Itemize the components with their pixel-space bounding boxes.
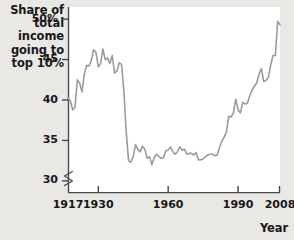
x-tick-label-1960: 1960: [145, 198, 191, 211]
y-tick-label-30: 30: [18, 173, 58, 186]
chart-container: Share oftotal incomegoing totop 10% 50%4…: [0, 0, 294, 240]
y-axis-break-icon: [63, 171, 74, 186]
y-tick-label-40: 40: [18, 93, 58, 106]
y-tick-label-50: 50%: [18, 12, 58, 25]
x-tick-label-1990: 1990: [215, 198, 261, 211]
y-tick-label-35: 35: [18, 133, 58, 146]
x-axis-title: Year: [214, 222, 288, 235]
x-tick-label-2008: 2008: [257, 198, 294, 211]
y-tick-label-45: 45: [18, 52, 58, 65]
y-axis-ticks: [62, 19, 68, 181]
x-tick-label-1930: 1930: [75, 198, 121, 211]
